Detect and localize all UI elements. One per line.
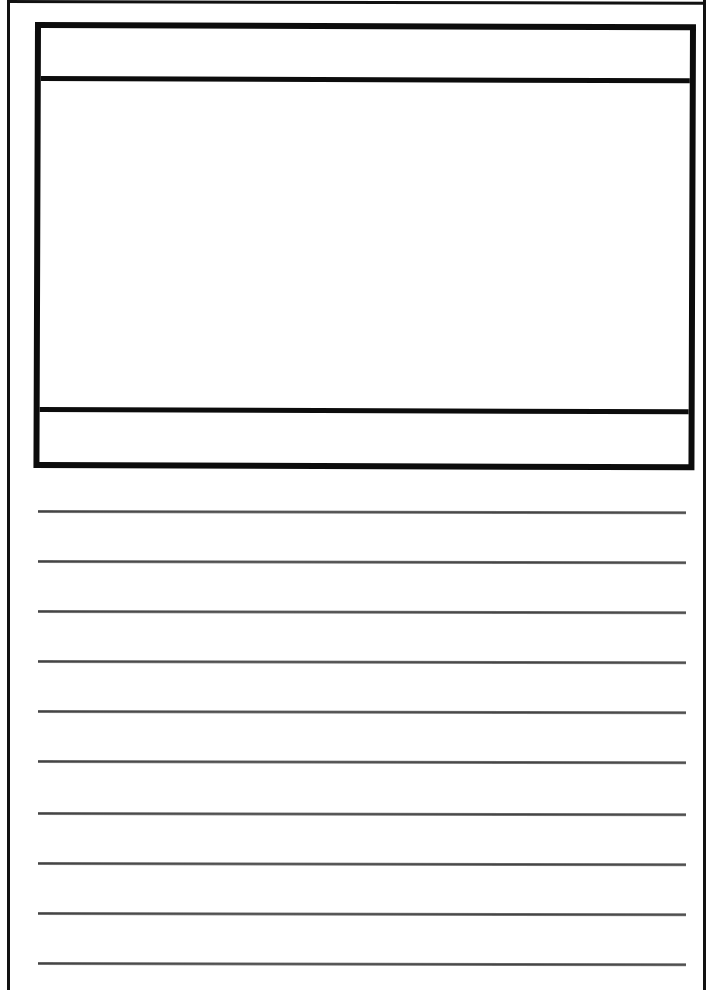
ruled-line[interactable] — [38, 560, 686, 564]
ruled-line[interactable] — [38, 710, 686, 714]
writing-lines — [38, 0, 686, 990]
page-border-left — [7, 0, 10, 990]
ruled-line[interactable] — [38, 510, 686, 514]
ruled-line[interactable] — [38, 962, 686, 966]
ruled-line[interactable] — [38, 862, 686, 866]
ruled-line[interactable] — [38, 812, 686, 816]
ruled-line[interactable] — [38, 912, 686, 916]
ruled-line[interactable] — [38, 660, 686, 664]
ruled-line[interactable] — [38, 610, 686, 614]
ruled-line[interactable] — [38, 760, 686, 764]
